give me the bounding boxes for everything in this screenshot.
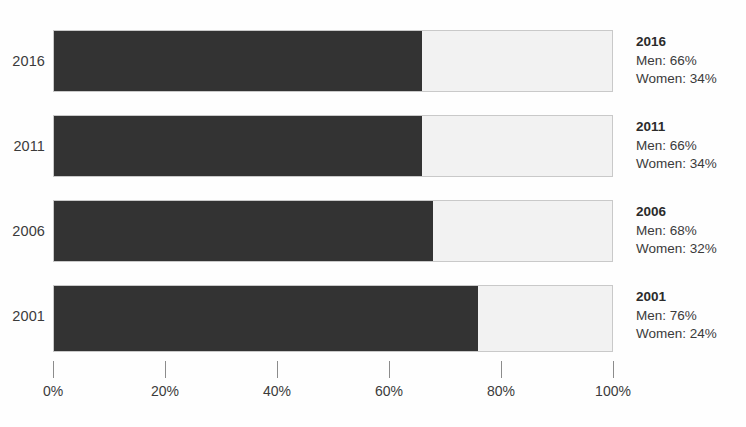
bar-segment-women-2016 (422, 31, 612, 91)
category-label-text: 2001 (12, 308, 45, 324)
bar-track-2011 (53, 115, 613, 177)
category-label-text: 2006 (12, 223, 45, 239)
annotation-men-value: Men: 66% (636, 52, 746, 71)
bar-segment-men-2016 (54, 31, 422, 91)
bar-track-2006 (53, 200, 613, 262)
plot-area (53, 30, 613, 352)
x-axis-tick (613, 361, 614, 378)
bar-row (53, 200, 613, 262)
annotation-2006: 2006 Men: 68% Women: 32% (636, 203, 746, 259)
annotation-2016: 2016 Men: 66% Women: 34% (636, 33, 746, 89)
stacked-bar-chart: 2016 2011 2006 2001 (0, 0, 746, 427)
annotation-women-value: Women: 34% (636, 155, 746, 174)
bar-segment-women-2011 (422, 116, 612, 176)
bar-segment-men-2001 (54, 286, 478, 351)
bar-row (53, 115, 613, 177)
category-label-text: 2016 (12, 53, 45, 69)
bar-segment-men-2006 (54, 201, 433, 261)
bar-row (53, 285, 613, 352)
annotation-2011: 2011 Men: 66% Women: 34% (636, 118, 746, 174)
category-label-2011: 2011 (0, 138, 45, 154)
annotation-women-value: Women: 34% (636, 70, 746, 89)
category-label-2016: 2016 (0, 53, 45, 69)
annotation-women-value: Women: 32% (636, 240, 746, 259)
annotation-2001: 2001 Men: 76% Women: 24% (636, 288, 746, 344)
annotation-year: 2016 (636, 33, 746, 52)
x-axis-tick (501, 361, 502, 378)
annotation-men-value: Men: 66% (636, 137, 746, 156)
bar-track-2001 (53, 285, 613, 352)
annotation-year: 2011 (636, 118, 746, 137)
x-axis-tick-label: 40% (263, 383, 291, 399)
x-axis-tick (277, 361, 278, 378)
annotation-year: 2001 (636, 288, 746, 307)
bar-segment-women-2001 (478, 286, 612, 351)
annotation-year: 2006 (636, 203, 746, 222)
x-axis-tick (165, 361, 166, 378)
x-axis-tick-label: 80% (487, 383, 515, 399)
x-axis-tick-label: 0% (43, 383, 63, 399)
bar-track-2016 (53, 30, 613, 92)
category-label-2001: 2001 (0, 308, 45, 324)
x-axis-tick (389, 361, 390, 378)
bar-segment-women-2006 (433, 201, 612, 261)
bar-row (53, 30, 613, 92)
x-axis-tick (53, 361, 54, 378)
category-label-text: 2011 (13, 138, 45, 154)
x-axis: 0% 20% 40% 60% 80% 100% (53, 352, 613, 422)
x-axis-tick-label: 20% (151, 383, 179, 399)
annotation-women-value: Women: 24% (636, 325, 746, 344)
x-axis-tick-label: 100% (595, 383, 631, 399)
x-axis-tick-label: 60% (375, 383, 403, 399)
bar-segment-men-2011 (54, 116, 422, 176)
category-label-2006: 2006 (0, 223, 45, 239)
annotation-men-value: Men: 76% (636, 307, 746, 326)
annotation-men-value: Men: 68% (636, 222, 746, 241)
